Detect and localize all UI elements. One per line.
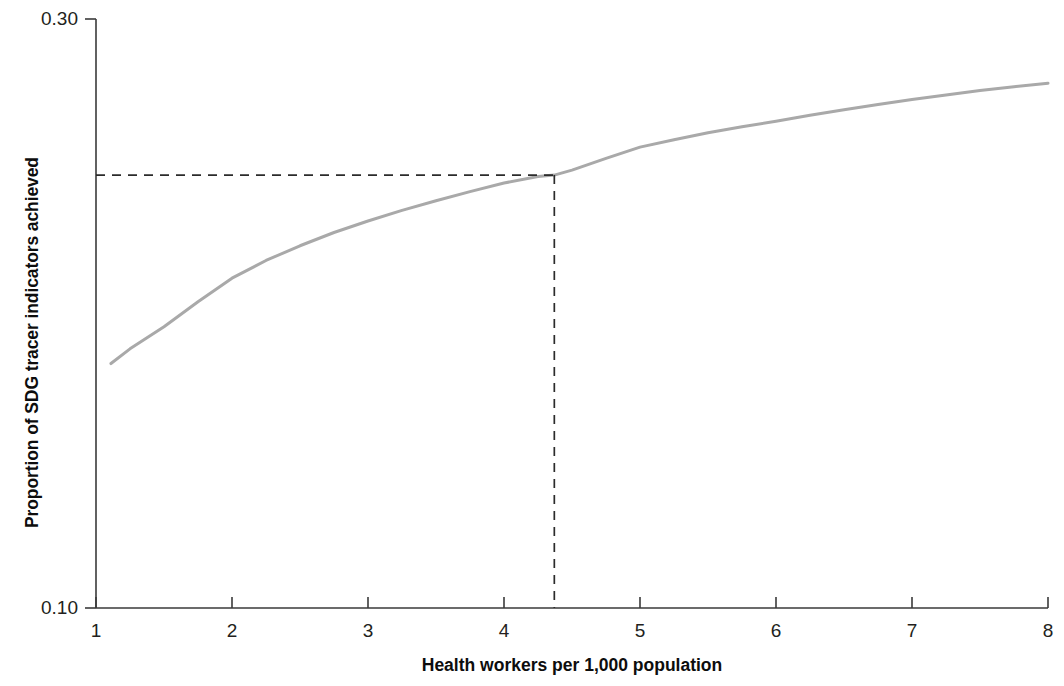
x-axis-tick-label: 8 <box>1043 620 1054 642</box>
x-axis-tick-label: 1 <box>91 620 102 642</box>
x-axis-tick-label: 6 <box>771 620 782 642</box>
x-axis-tick-label: 4 <box>499 620 510 642</box>
x-axis-tick-label: 7 <box>907 620 918 642</box>
x-axis-tick-label: 3 <box>363 620 374 642</box>
x-axis-title: Health workers per 1,000 population <box>422 655 723 676</box>
y-axis-title: Proportion of SDG tracer indicators achi… <box>22 157 43 528</box>
x-tick-marks <box>96 597 1048 608</box>
y-axis-tick-label-top: 0.30 <box>0 8 78 30</box>
x-axis-tick-label: 5 <box>635 620 646 642</box>
x-axis-tick-label: 2 <box>227 620 238 642</box>
chart-plot-area <box>0 0 1064 686</box>
data-series-line <box>111 83 1048 363</box>
chart-figure: 0.30 0.10 12345678 Proportion of SDG tra… <box>0 0 1064 686</box>
y-axis-tick-label-bottom: 0.10 <box>0 597 78 619</box>
